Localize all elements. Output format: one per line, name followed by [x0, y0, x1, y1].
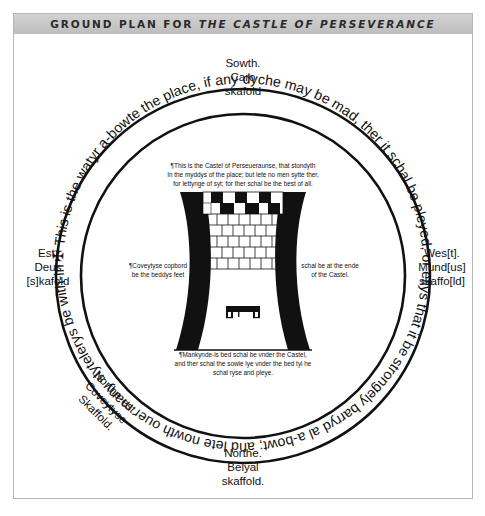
scaffold-word: [s]kafold — [8, 274, 88, 288]
scaffold-name: Mund[us] — [402, 260, 482, 274]
scaffold-word: skaffo[ld] — [402, 274, 482, 288]
note-line: In the myddys of the place; but lete no … — [143, 170, 343, 179]
scaffold-name: Caro — [203, 70, 283, 84]
note-line: and ther schal the sowle lye vnder the b… — [143, 359, 343, 368]
covetise-cupboard-note: ¶Coveytyse copbord be the beddys feet — [118, 261, 198, 279]
scaffold-west-label: Wes[t]. Mund[us] skaffo[ld] — [402, 246, 482, 288]
scaffold-east-label: Est. Deus [s]kafold — [8, 246, 88, 288]
note-line: ¶This is the Castel of Perseueraunse, th… — [143, 161, 343, 170]
scaffold-south-label: Sowth. Caro skafold — [203, 56, 283, 98]
mankynde-bed — [226, 306, 260, 318]
note-line: ¶Mankynde-is bed schal be vnder the Cast… — [143, 350, 343, 359]
scaffold-direction: Sowth. — [203, 56, 283, 70]
scaffold-direction: Northe. — [203, 446, 283, 460]
ende-of-castel-note: schal be at the ende of the Castel. — [290, 261, 370, 279]
note-line: schal ryse and pleye. — [143, 368, 343, 377]
scaffold-name: Deus — [8, 260, 88, 274]
scaffold-north-label: Northe. Belyal skaffold. — [203, 446, 283, 488]
note-line: of the Castel. — [290, 270, 370, 279]
castle-battlements — [203, 192, 283, 214]
scaffold-direction: Est. — [8, 246, 88, 260]
note-line: be the beddys feet — [118, 270, 198, 279]
note-line: schal be at the ende — [290, 261, 370, 270]
castle-note: ¶This is the Castel of Perseueraunse, th… — [143, 161, 343, 188]
note-line: for lettynge of syt; for ther schal be t… — [143, 179, 343, 188]
castle-brickwork — [207, 214, 280, 269]
scaffold-direction: Wes[t]. — [402, 246, 482, 260]
mankynde-bed-note: ¶Mankynde-is bed schal be vnder the Cast… — [143, 350, 343, 377]
scaffold-word: skaffold. — [203, 474, 283, 488]
scaffold-word: skafold — [203, 84, 283, 98]
scaffold-name: Belyal — [203, 460, 283, 474]
note-line: ¶Coveytyse copbord — [118, 261, 198, 270]
